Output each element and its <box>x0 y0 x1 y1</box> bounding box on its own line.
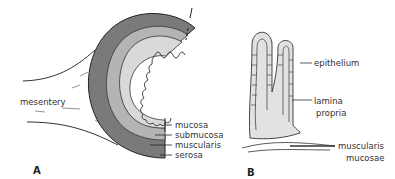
label-muscularis-mucosae-1: muscularis <box>338 141 384 151</box>
label-propria: propria <box>316 108 346 118</box>
label-submucosa: submucosa <box>175 130 223 140</box>
label-muscularis-mucosae-2: mucosae <box>346 153 384 163</box>
label-mucosa: mucosa <box>175 120 208 130</box>
panel-label-b: B <box>247 167 255 178</box>
label-muscularis: muscularis <box>175 140 221 150</box>
label-serosa: serosa <box>175 150 203 160</box>
intestine-wall-diagram: mesentery mucosa submucosa muscularis se… <box>0 0 395 179</box>
panel-label-a: A <box>33 165 41 176</box>
label-mesentery: mesentery <box>20 97 66 107</box>
label-epithelium: epithelium <box>314 58 359 68</box>
label-lamina: lamina <box>314 96 343 106</box>
